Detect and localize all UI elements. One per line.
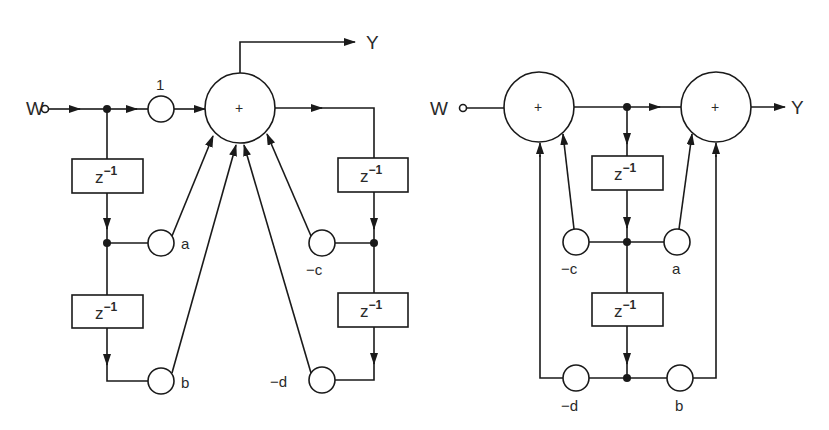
coef-d-to-summer-arrow-icon — [244, 145, 311, 373]
coef-d-label: −d — [270, 373, 287, 390]
right-output-label: Y — [791, 97, 804, 118]
wire — [107, 363, 148, 381]
coef-d-label: −d — [561, 397, 578, 414]
left-diagram: W 1 + Y z−1 a z−1 b — [26, 32, 408, 394]
left-summer-symbol: + — [235, 100, 243, 116]
wire — [320, 108, 374, 158]
coef-c-to-summer-arrow-icon — [267, 134, 311, 236]
coef-a-node — [664, 229, 690, 255]
left-input-terminal-icon — [42, 106, 49, 113]
coef-a-to-summer2-arrow-icon — [679, 134, 692, 229]
coef-c-to-summer1-arrow-icon — [563, 134, 574, 229]
coef-c-label: −c — [306, 261, 323, 278]
coef-d-node — [309, 367, 335, 393]
right-summer-1-symbol: + — [534, 99, 542, 115]
right-input-label: W — [430, 98, 448, 119]
right-summer-2-symbol: + — [711, 99, 719, 115]
wire — [335, 362, 374, 380]
coef-b-node — [148, 368, 174, 394]
coef-a-label: a — [672, 260, 681, 277]
coef-a-label: a — [181, 235, 190, 252]
coef-a-to-summer-arrow-icon — [172, 136, 213, 236]
right-diagram: W + + Y z−1 −c a z−1 −d — [430, 72, 804, 414]
right-input-terminal-icon — [460, 105, 467, 112]
coef-b-node — [667, 365, 693, 391]
coef-c-node — [563, 229, 589, 255]
wire — [693, 155, 716, 378]
left-output-arrow-icon — [240, 42, 355, 73]
coef-c-label: −c — [561, 260, 578, 277]
filter-structures-canvas: W 1 + Y z−1 a z−1 b — [0, 0, 829, 430]
coef-d-node — [563, 365, 589, 391]
coef-c-node — [309, 230, 335, 256]
left-output-label: Y — [366, 32, 379, 53]
wire — [540, 155, 563, 378]
coef-b-label: b — [181, 374, 189, 391]
gain-one-node — [148, 96, 174, 122]
coef-b-label: b — [675, 397, 683, 414]
coef-b-to-summer-arrow-icon — [172, 145, 236, 373]
gain-one-label: 1 — [156, 76, 164, 93]
coef-a-node — [148, 230, 174, 256]
